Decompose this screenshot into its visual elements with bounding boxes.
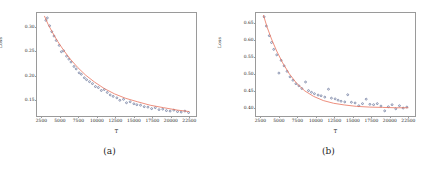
x-tick-label: 20000 <box>164 119 178 123</box>
data-point <box>305 81 307 83</box>
data-point <box>86 79 88 81</box>
data-point <box>344 101 346 103</box>
data-point <box>60 51 62 53</box>
x-tick-label: 10000 <box>90 119 104 123</box>
data-point <box>365 98 367 100</box>
x-tick-label: 5000 <box>273 119 284 123</box>
x-tick-mark <box>189 116 190 118</box>
data-point <box>154 107 156 109</box>
x-tick-label: 22500 <box>182 119 196 123</box>
data-point <box>136 104 138 106</box>
x-tick-label: 20000 <box>383 119 397 123</box>
data-point <box>308 90 310 92</box>
x-tick-mark <box>115 116 116 118</box>
data-point <box>320 95 322 97</box>
data-point <box>273 48 275 50</box>
figure-container: 0.150.200.250.30 25005000750010000125001… <box>0 0 439 172</box>
data-point <box>278 72 280 74</box>
data-point <box>147 106 149 108</box>
data-point <box>362 103 364 105</box>
x-tick-mark <box>390 116 391 118</box>
x-tick-label: 12500 <box>108 119 122 123</box>
data-point <box>330 97 332 99</box>
x-tick-mark <box>334 116 335 118</box>
y-tick-mark <box>254 74 256 75</box>
x-tick-mark <box>60 116 61 118</box>
caption-a: (a) <box>0 146 219 156</box>
x-tick-label: 7500 <box>73 119 84 123</box>
data-point <box>80 73 82 75</box>
data-point <box>311 91 313 93</box>
data-point <box>116 97 118 99</box>
data-point <box>384 110 386 112</box>
data-point <box>376 103 378 105</box>
x-axis-label-b: T <box>255 128 416 134</box>
y-tick-mark <box>254 57 256 58</box>
x-axis-label-a: T <box>36 128 197 134</box>
data-point <box>123 98 125 100</box>
y-tick-label: 0.45 <box>244 89 254 93</box>
x-tick-mark <box>297 116 298 118</box>
data-point <box>112 95 114 97</box>
data-point <box>73 66 75 68</box>
x-tick-mark <box>279 116 280 118</box>
data-point <box>162 108 164 110</box>
data-point <box>347 94 349 96</box>
data-point <box>78 72 80 74</box>
x-tick-mark <box>78 116 79 118</box>
data-point <box>177 111 179 113</box>
x-tick-mark <box>134 116 135 118</box>
y-tick-label: 0.30 <box>25 25 35 29</box>
data-point <box>271 42 273 44</box>
x-tick-mark <box>171 116 172 118</box>
x-tick-label: 5000 <box>54 119 65 123</box>
plot-area-a: 0.150.200.250.30 25005000750010000125001… <box>36 12 197 117</box>
x-tick-mark <box>408 116 409 118</box>
data-point <box>334 98 336 100</box>
x-tick-label: 10000 <box>309 119 323 123</box>
data-point <box>75 68 77 70</box>
scatter-series <box>263 16 408 112</box>
x-tick-mark <box>152 116 153 118</box>
x-tick-label: 2500 <box>36 119 47 123</box>
data-point <box>354 102 356 104</box>
x-tick-label: 7500 <box>292 119 303 123</box>
data-point <box>97 87 99 89</box>
x-tick-label: 17500 <box>364 119 378 123</box>
data-point <box>369 103 371 105</box>
data-point <box>276 54 278 56</box>
data-point <box>391 104 393 106</box>
data-point <box>129 101 131 103</box>
data-point <box>337 99 339 101</box>
x-tick-label: 15000 <box>127 119 141 123</box>
panel-a: 0.150.200.250.30 25005000750010000125001… <box>0 0 219 172</box>
x-tick-label: 12500 <box>327 119 341 123</box>
x-tick-label: 15000 <box>346 119 360 123</box>
data-point <box>399 105 401 107</box>
data-point <box>100 90 102 92</box>
data-point <box>328 88 330 90</box>
data-point <box>373 104 375 106</box>
plot-canvas-a <box>37 13 196 116</box>
data-point <box>109 94 111 96</box>
data-point <box>180 111 182 113</box>
data-point <box>380 105 382 107</box>
data-point <box>83 77 85 79</box>
fitted-curve <box>44 16 189 112</box>
y-tick-mark <box>254 108 256 109</box>
caption-b: (b) <box>219 146 438 156</box>
plot-canvas-b <box>256 13 415 116</box>
data-point <box>70 61 72 63</box>
y-tick-label: 0.20 <box>25 74 35 78</box>
data-point <box>119 99 121 101</box>
data-point <box>92 83 94 85</box>
y-axis-label-b: Loss <box>217 17 222 69</box>
data-point <box>46 17 48 19</box>
data-point <box>143 106 145 108</box>
data-point <box>94 86 96 88</box>
fitted-curve <box>263 15 408 108</box>
panel-b: 0.400.450.500.550.600.65 250050007500100… <box>219 0 438 172</box>
x-tick-label: 22500 <box>401 119 415 123</box>
x-tick-mark <box>41 116 42 118</box>
data-point <box>126 102 128 104</box>
